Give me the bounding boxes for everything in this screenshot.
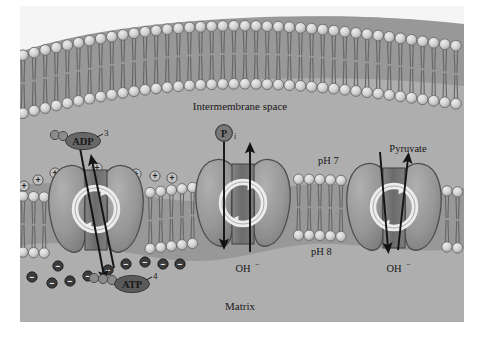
figure-container: +++++++++−−−−−−−−−− <box>0 0 481 344</box>
mitochondrial-transport-diagram: +++++++++−−−−−−−−−− <box>0 0 481 344</box>
print-grain-overlay <box>20 6 464 322</box>
